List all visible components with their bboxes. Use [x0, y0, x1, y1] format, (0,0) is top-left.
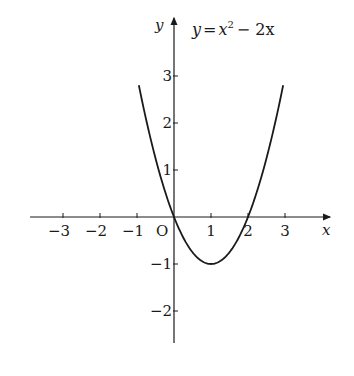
y-tick-label: 1: [162, 161, 172, 179]
y-tick-label: −2: [150, 302, 172, 320]
x-axis-label: x: [322, 221, 331, 239]
function-graph: −3−2−1123 321−1−2 x y O y=x2− 2x: [0, 0, 354, 376]
y-axis-label: y: [154, 16, 164, 34]
x-tick-label: 1: [206, 222, 216, 240]
origin-label: O: [156, 222, 168, 240]
x-tick-label: −2: [85, 222, 107, 240]
x-tick-label: 3: [280, 222, 290, 240]
x-tick-label: −1: [122, 222, 144, 240]
y-tick-label: 3: [162, 67, 172, 85]
axes: [30, 18, 330, 343]
y-tick-label: −1: [150, 255, 172, 273]
x-tick-label: −3: [48, 222, 70, 240]
equation-label: y=x2− 2x: [191, 19, 275, 39]
y-tick-label: 2: [162, 114, 172, 132]
